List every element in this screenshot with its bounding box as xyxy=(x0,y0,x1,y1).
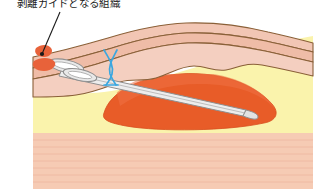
marker-dot xyxy=(40,52,44,56)
guide-tissue-annotation-label: 剥離ガイドとなる組織 xyxy=(17,0,120,9)
striated-muscle-layer xyxy=(33,133,313,189)
anatomy-cross-section-svg xyxy=(0,0,327,195)
surgical-illustration-figure: 剥離ガイドとなる組織 xyxy=(0,0,327,195)
